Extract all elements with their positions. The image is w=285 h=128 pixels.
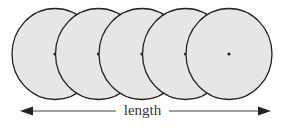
- length-label: length: [0, 102, 285, 119]
- center-dot-icon: [227, 52, 230, 55]
